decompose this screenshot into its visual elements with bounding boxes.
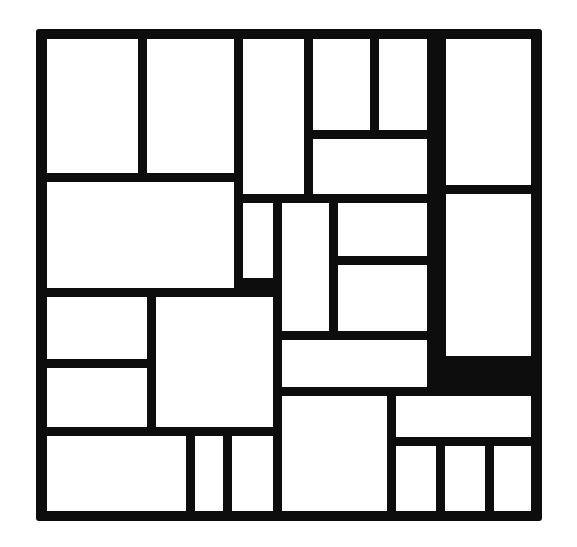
partition-diagram-canvas <box>0 0 577 547</box>
partition-cell-r4 <box>313 39 370 130</box>
partition-cell-r13 <box>446 194 531 356</box>
partition-cell-r6 <box>446 39 531 185</box>
partition-cell-r20 <box>47 436 186 511</box>
partition-cell-r25 <box>494 446 531 511</box>
partition-cell-r23 <box>396 446 436 511</box>
partition-cell-r21 <box>195 436 223 511</box>
partition-cell-r11 <box>338 203 427 256</box>
partition-cell-r5 <box>379 39 427 130</box>
partition-cell-r24 <box>445 446 485 511</box>
partition-cell-r17 <box>47 368 147 427</box>
partition-cell-r10 <box>282 203 329 331</box>
partition-cell-r15 <box>156 297 273 427</box>
partition-cell-r12 <box>338 265 427 331</box>
partition-cell-r22 <box>232 436 273 511</box>
partition-cell-r19 <box>396 396 531 437</box>
partition-cell-r9 <box>243 203 273 278</box>
partition-cell-r14 <box>47 297 147 359</box>
partition-cell-r3 <box>243 39 304 194</box>
partition-cell-r18 <box>282 396 387 511</box>
partition-cell-r7 <box>313 139 427 194</box>
partition-cell-r16 <box>282 340 427 387</box>
partition-cell-r8 <box>47 182 234 288</box>
partition-cell-r1 <box>47 39 138 173</box>
partition-cell-r2 <box>147 39 234 173</box>
